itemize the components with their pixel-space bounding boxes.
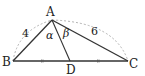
vertex-label-a: A xyxy=(45,5,55,19)
length-label-ac: 6 xyxy=(91,25,98,38)
vertex-label-d: D xyxy=(66,63,76,76)
vertex-label-b: B xyxy=(2,55,11,69)
angle-label-beta: β xyxy=(62,27,69,40)
angle-label-alpha: α xyxy=(46,29,54,42)
vertex-label-c: C xyxy=(129,57,138,71)
length-label-ab: 4 xyxy=(22,27,29,40)
triangle-diagram: A B C D 4 6 α β xyxy=(0,0,145,76)
diagram-canvas: A B C D 4 6 α β xyxy=(0,0,145,76)
